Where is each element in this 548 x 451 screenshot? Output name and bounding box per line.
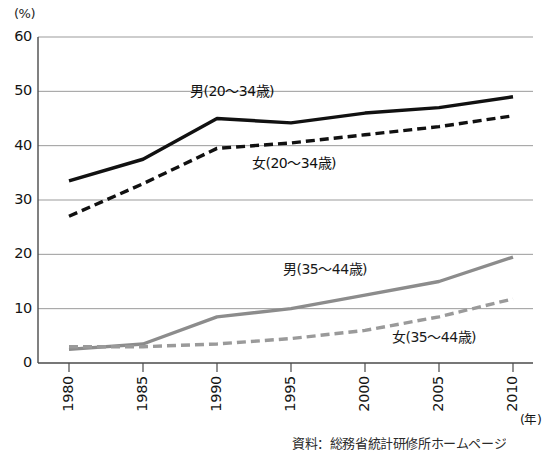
x-axis-tick-label: 2010: [504, 376, 520, 412]
x-axis-tick-label: 1985: [134, 376, 150, 412]
y-axis-tick-label: 30: [2, 191, 32, 207]
y-axis-tick-label: 60: [2, 28, 32, 44]
y-axis-tick-label: 50: [2, 82, 32, 98]
x-axis-ticks: [69, 363, 513, 372]
y-axis-tick-label: 0: [2, 354, 32, 370]
y-axis-tick-label: 20: [2, 245, 32, 261]
y-axis-tick-label: 40: [2, 137, 32, 153]
series-annotation-label: 女(35〜44歳): [392, 330, 476, 344]
x-axis-tick-label: 1990: [208, 376, 224, 412]
x-axis-tick-label: 2005: [430, 376, 446, 412]
series-lines: [69, 97, 513, 350]
y-axis-tick-label: 10: [2, 300, 32, 316]
x-axis-tick-label: 1995: [282, 376, 298, 412]
x-axis-tick-label: 2000: [356, 376, 372, 412]
series-annotation-label: 男(20〜34歳): [190, 84, 274, 98]
chart-container: (%) 6050403020100 1980198519901995200020…: [0, 0, 548, 451]
x-axis-unit-label: (年): [520, 409, 541, 428]
series-annotation-label: 男(35〜44歳): [283, 262, 367, 276]
source-note: 資料：総務省統計研修所ホームページ: [292, 433, 506, 451]
x-axis-tick-label: 1980: [60, 376, 76, 412]
chart-plot-area: [0, 0, 548, 451]
gridlines: [38, 37, 533, 363]
series-annotation-label: 女(20〜34歳): [252, 156, 336, 170]
